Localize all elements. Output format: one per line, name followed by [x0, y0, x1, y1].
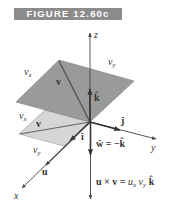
k-hat-label: k̂	[94, 91, 100, 103]
upper-vy-label: vy	[108, 56, 116, 69]
j-hat-vector	[90, 122, 120, 130]
lower-v-label: v	[36, 118, 41, 129]
y-axis-label: y	[150, 142, 156, 153]
u-vector-label: u	[42, 166, 48, 177]
j-hat-label: ĵ	[120, 115, 125, 126]
lower-vx-label: vx	[19, 110, 27, 123]
cross-product-equation: u × v = ux vy k̂	[96, 175, 155, 189]
cross-product-diagram: z y x vx vy v k̂ vx v vy ĵ î ŵ = −k̂ u u…	[0, 0, 173, 211]
w-hat-equation: ŵ = −k̂	[96, 137, 126, 149]
x-axis-label: x	[13, 190, 19, 201]
i-hat-label: î	[80, 131, 84, 142]
upper-vx-label: vx	[24, 66, 32, 79]
upper-v-label: v	[56, 76, 61, 87]
z-axis-label: z	[93, 29, 98, 40]
lower-vy-label: vy	[33, 144, 41, 157]
